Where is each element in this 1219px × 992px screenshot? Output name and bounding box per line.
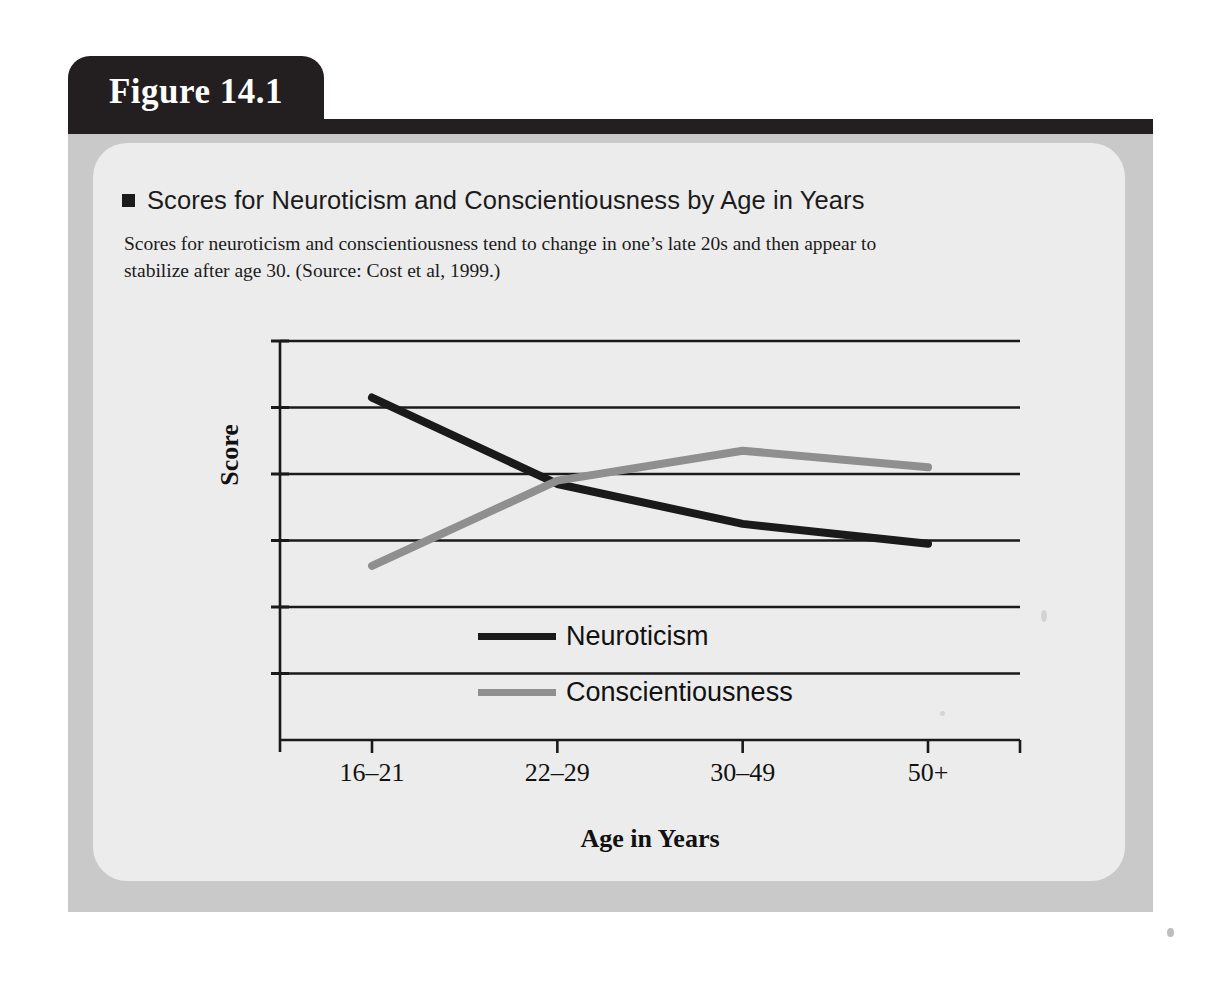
x-axis-tick-labels: 16–2122–2930–4950+	[280, 758, 1020, 798]
legend-item: Conscientiousness	[478, 664, 793, 720]
x-tick-label: 22–29	[525, 758, 590, 788]
square-bullet-icon	[122, 194, 135, 207]
figure-number-tab: Figure 14.1	[68, 56, 324, 134]
figure-title-text: Scores for Neuroticism and Conscientious…	[147, 186, 865, 214]
scan-speck	[1167, 928, 1174, 937]
figure-title: Scores for Neuroticism and Conscientious…	[122, 186, 865, 215]
scan-speck	[940, 711, 945, 716]
legend-label: Conscientiousness	[566, 677, 793, 708]
y-axis-label: Score	[215, 375, 245, 535]
scan-speck	[1041, 610, 1047, 622]
legend-item: Neuroticism	[478, 608, 793, 664]
legend-swatch-icon	[478, 633, 556, 640]
x-tick-label: 16–21	[340, 758, 405, 788]
x-axis-label: Age in Years	[280, 824, 1020, 854]
figure-caption: Scores for neuroticism and conscientious…	[124, 230, 924, 284]
chart-legend: NeuroticismConscientiousness	[478, 608, 793, 720]
figure-number-label: Figure 14.1	[68, 72, 324, 112]
figure-root: Figure 14.1 Scores for Neuroticism and C…	[0, 0, 1219, 992]
legend-swatch-icon	[478, 689, 556, 696]
legend-label: Neuroticism	[566, 621, 709, 652]
figure-header-bar	[300, 119, 1153, 134]
x-tick-label: 30–49	[710, 758, 775, 788]
x-tick-label: 50+	[908, 758, 949, 788]
